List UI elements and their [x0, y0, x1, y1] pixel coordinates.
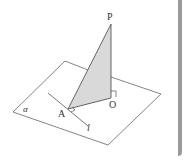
label-alpha: α [23, 104, 28, 114]
frame-border [178, 0, 182, 156]
label-o: O [109, 99, 116, 110]
diagram-canvas: P A O l α [0, 0, 185, 164]
right-angle-mark-o [111, 91, 116, 97]
label-a: A [58, 108, 66, 119]
label-l: l [87, 122, 90, 133]
geometry-figure: P A O l α [0, 0, 185, 164]
label-p: P [107, 11, 113, 22]
